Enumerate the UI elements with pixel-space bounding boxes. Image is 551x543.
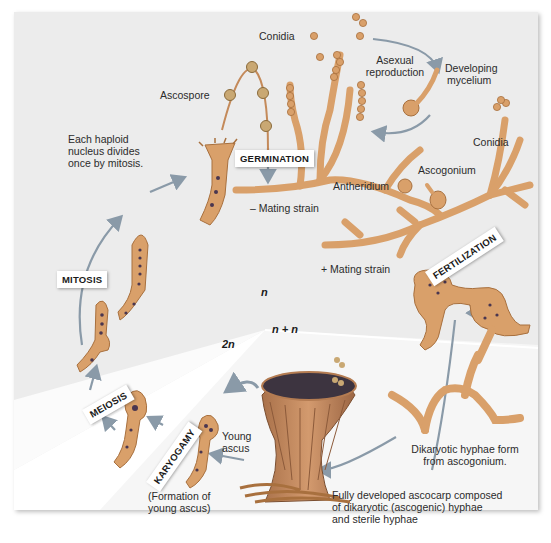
ploidy-haploid: n — [261, 286, 268, 298]
label-dikaryotic-hyphae-form: Dikaryotic hyphae form from ascogonium. — [400, 443, 530, 467]
label-young-ascus: Young ascus — [222, 430, 251, 454]
ascomycete-life-cycle-diagram: Conidia Asexual reproduction Developing … — [0, 0, 551, 543]
ploidy-dikaryon: n + n — [272, 323, 298, 335]
label-developing-mycelium: Developing mycelium — [445, 62, 498, 86]
label-formation-of-young-ascus: (Formation of young ascus) — [148, 490, 210, 514]
label-fully-developed-ascocarp: Fully developed ascocarp composed of dik… — [332, 489, 502, 525]
label-conidia-top: Conidia — [259, 30, 295, 42]
label-asexual-reproduction: Asexual reproduction — [355, 54, 435, 78]
label-plus-mating-strain: + Mating strain — [321, 263, 390, 275]
stage-mitosis: MITOSIS — [57, 271, 107, 288]
label-ascospore: Ascospore — [160, 89, 210, 101]
stage-germination: GERMINATION — [235, 150, 314, 167]
ploidy-diploid: 2n — [222, 338, 235, 350]
label-ascogonium: Ascogonium — [418, 164, 476, 176]
antheridium — [398, 179, 412, 193]
label-antheridium: Antheridium — [333, 180, 389, 192]
label-conidia-right: Conidia — [473, 136, 509, 148]
label-minus-mating-strain: – Mating strain — [250, 202, 319, 214]
label-haploid-nucleus-divides: Each haploid nucleus divides once by mit… — [68, 133, 143, 169]
